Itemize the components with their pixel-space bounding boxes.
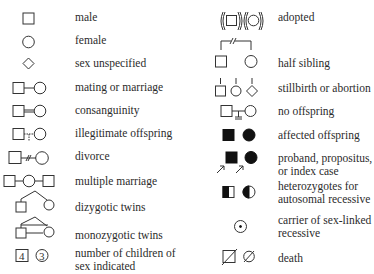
legend-label-number-children-1: number of children of: [75, 247, 176, 259]
legend-label-no-offspring: no offspring: [278, 105, 334, 117]
legend-label-proband-1: proband, propositus,: [278, 152, 372, 164]
legend-label-carrier-2: recessive: [278, 227, 320, 239]
divorce-icon: [8, 150, 52, 166]
legend-label-death: death: [278, 252, 303, 264]
diamond-icon: [22, 57, 36, 71]
legend-label-affected: affected offspring: [278, 129, 360, 141]
legend-label-illegitimate: illegitimate offspring: [75, 127, 172, 139]
mating-line-icon: [12, 81, 48, 95]
illegitimate-offspring-icon: [12, 127, 48, 143]
legend-label-male: male: [75, 11, 97, 23]
monozygotic-twins-icon: [15, 216, 47, 240]
legend-label-number-children-2: sex indicated: [75, 260, 135, 272]
dizygotic-twins-icon: [15, 190, 47, 214]
legend-label-multiple-marriage: multiple marriage: [75, 175, 157, 187]
multiple-marriage-icon: [3, 174, 57, 190]
legend-label-heterozygote-2: autosomal recessive: [278, 193, 370, 205]
legend-label-stillbirth: stillbirth or abortion: [278, 82, 371, 94]
female-count: 3: [39, 250, 45, 262]
legend-label-heterozygote-1: heterozygotes for: [278, 180, 358, 192]
legend-label-mating: mating or marriage: [75, 81, 163, 93]
carrier-sex-linked-icon: [233, 219, 249, 235]
legend-label-dizygotic: dizygotic twins: [75, 201, 146, 213]
half-sibling-icon: [215, 39, 263, 71]
no-offspring-icon: [220, 104, 260, 122]
stillbirth-icon: [215, 77, 265, 99]
legend-label-sex-unspecified: sex unspecified: [75, 57, 146, 69]
legend-label-female: female: [75, 34, 106, 46]
heterozygote-icon: [222, 185, 258, 199]
legend-label-carrier-1: carrier of sex-linked: [278, 214, 371, 226]
legend-label-half-sibling: half sibling: [278, 57, 330, 69]
legend-label-divorce: divorce: [75, 150, 109, 162]
legend-label-proband-2: or index case: [278, 165, 339, 177]
female-circle-icon: [22, 35, 36, 49]
legend-label-monozygotic: monozygotic twins: [75, 229, 163, 241]
consanguinity-icon: [12, 104, 48, 118]
proband-icon: [214, 151, 260, 177]
adopted-icon: [219, 10, 269, 32]
affected-offspring-icon: [222, 128, 258, 142]
legend-label-consanguinity: consanguinity: [75, 104, 140, 116]
male-square-icon: [22, 12, 36, 26]
male-count: 4: [19, 250, 25, 262]
legend-label-adopted: adopted: [278, 11, 314, 23]
number-of-children-icon: 4 3: [15, 248, 55, 264]
death-icon: [222, 249, 258, 267]
